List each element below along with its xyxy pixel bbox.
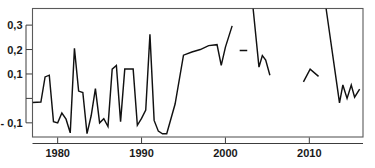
line-chart: 0,30,20,1- 0,1 1980199020002010 — [0, 0, 375, 168]
x-tick-label-1: 1990 — [129, 147, 153, 159]
chart-background — [0, 0, 375, 168]
y-tick-label-4: - 0,1 — [0, 117, 22, 129]
x-tick-label-2: 2000 — [213, 147, 237, 159]
chart-container: 0,30,20,1- 0,1 1980199020002010 — [0, 0, 375, 168]
y-tick-label-0: 0,3 — [7, 19, 22, 31]
y-tick-label-1: 0,2 — [7, 44, 22, 56]
x-tick-label-0: 1980 — [45, 147, 69, 159]
y-tick-label-2: 0,1 — [7, 68, 22, 80]
x-tick-label-3: 2010 — [297, 147, 321, 159]
